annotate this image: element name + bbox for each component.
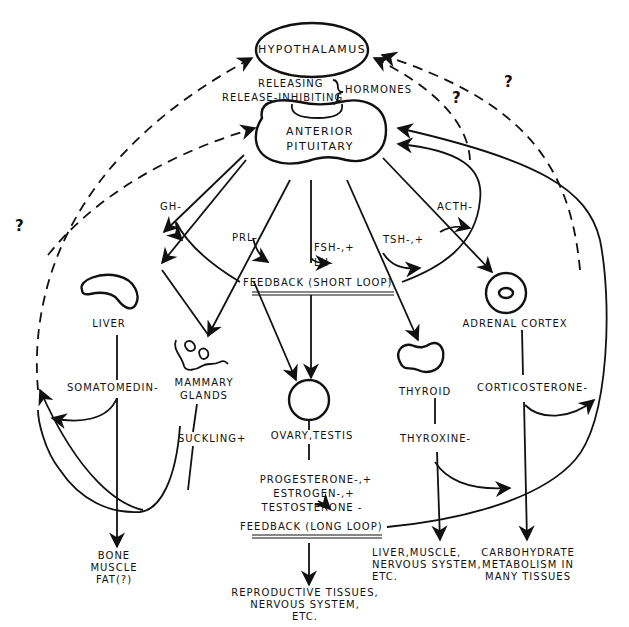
somatomedin-label: SOMATOMEDIN-	[67, 382, 159, 394]
prl-label: PRL-	[232, 232, 258, 244]
gh-label: GH-	[160, 201, 182, 213]
anterior-pituitary-label-line2: PITUITARY	[286, 141, 354, 153]
reproductive-target-line2: NERVOUS SYSTEM,	[250, 599, 360, 611]
hypothalamus-label: HYPOTHALAMUS	[258, 44, 366, 56]
corticosterone-label: CORTICOSTERONE-	[477, 382, 588, 394]
thyroid-target-line3: ETC.	[372, 571, 398, 583]
suckling-label: SUCKLING+	[178, 433, 246, 445]
feedback-short-loop-label: FEEDBACK (SHORT LOOP)	[243, 277, 392, 289]
adrenal-target-line2: METABOLISM IN	[482, 559, 574, 571]
uncertain-mark-inner-right: ?	[452, 92, 461, 104]
bone-target-line3: FAT(?)	[96, 574, 132, 586]
fsh-label: FSH-,+	[314, 242, 355, 254]
estrogen-label: ESTROGEN-,+	[273, 488, 354, 500]
acth-label: ACTH-	[437, 201, 473, 213]
thyroid-shape	[398, 343, 443, 372]
adrenal-target-line3: MANY TISSUES	[485, 571, 571, 583]
tsh-label: TSH-,+	[383, 234, 424, 246]
testosterone-label: TESTOSTERONE -	[262, 502, 363, 514]
adrenal-target-line1: CARBOHYDRATE	[481, 547, 575, 559]
uncertain-mark-left: ?	[15, 220, 24, 232]
lh-label: LH-	[314, 257, 334, 269]
mammary-shape	[175, 340, 228, 370]
liver-shape	[82, 275, 138, 308]
anterior-pituitary-label-line1: ANTERIOR	[286, 126, 354, 138]
mammary-label-line2: GLANDS	[180, 390, 228, 402]
bone-target-line1: BONE	[98, 550, 130, 562]
adrenal-cortex-shape	[486, 273, 526, 313]
adrenal-cortex-label: ADRENAL CORTEX	[462, 318, 567, 330]
thyroid-target-line1: LIVER,MUSCLE,	[372, 547, 461, 559]
bone-target-line2: MUSCLE	[90, 562, 137, 574]
uncertain-mark-outer-right: ?	[504, 76, 513, 88]
feedback-long-loop-label: FEEDBACK (LONG LOOP)	[240, 521, 383, 533]
ovary-testis-label: OVARY,TESTIS	[271, 430, 354, 442]
mammary-label-line1: MAMMARY	[175, 377, 234, 389]
endocrine-feedback-diagram: HYPOTHALAMUS RELEASING RELEASE-INHIBITIN…	[0, 0, 629, 627]
pituitary-lobe	[292, 104, 343, 118]
thyroxine-label: THYROXINE-	[400, 433, 471, 445]
reproductive-target-line1: REPRODUCTIVE TISSUES,	[231, 587, 378, 599]
reproductive-target-line3: ETC.	[292, 611, 318, 623]
ovary-testis-shape	[289, 380, 329, 420]
hormones-label: HORMONES	[345, 84, 412, 96]
progesterone-label: PROGESTERONE-,+	[260, 474, 372, 486]
liver-label: LIVER	[92, 318, 126, 330]
thyroid-target-line2: NERVOUS SYSTEM,	[372, 559, 482, 571]
thyroid-label: THYROID	[399, 386, 451, 398]
releasing-label: RELEASING	[258, 78, 324, 90]
release-inhibiting-label: RELEASE-INHIBITING	[222, 92, 343, 104]
